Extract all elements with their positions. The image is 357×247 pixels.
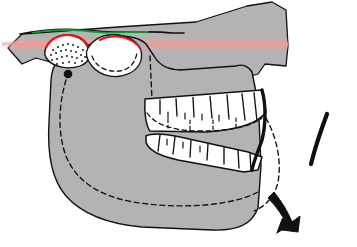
illustration-canvas: Lateral view of maxilla and mandible wit… [0, 0, 357, 247]
condyle-landmark-point [64, 70, 73, 79]
mandible-rotation-direction [268, 192, 300, 234]
osteotomy-band-left-overshoot [2, 40, 28, 48]
jaw-surgery-figure [0, 0, 357, 247]
rotation-arc-marker [311, 114, 327, 164]
